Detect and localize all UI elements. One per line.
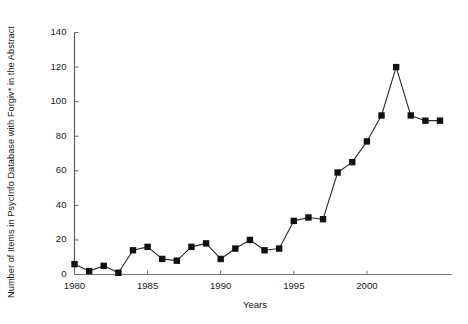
data-point-marker [364, 138, 370, 144]
data-point-marker [71, 261, 77, 267]
data-point-marker [101, 263, 107, 269]
data-point-marker [408, 112, 414, 118]
data-point-marker [349, 159, 355, 165]
data-point-marker [86, 268, 92, 274]
data-point-marker [393, 64, 399, 70]
data-point-marker [159, 256, 165, 262]
data-point-marker [276, 245, 282, 251]
data-point-marker [115, 270, 121, 276]
data-point-marker [334, 169, 340, 175]
data-point-marker [378, 112, 384, 118]
data-point-marker [320, 216, 326, 222]
plot-area [0, 0, 468, 324]
data-point-marker [247, 237, 253, 243]
data-point-marker [422, 117, 428, 123]
data-series [71, 64, 443, 276]
data-point-marker [218, 256, 224, 262]
data-point-marker [305, 214, 311, 220]
data-point-marker [130, 247, 136, 253]
data-point-marker [291, 218, 297, 224]
data-point-marker [261, 247, 267, 253]
data-point-marker [437, 117, 443, 123]
data-point-marker [232, 245, 238, 251]
data-line [75, 67, 441, 273]
data-point-marker [174, 257, 180, 263]
data-point-marker [188, 244, 194, 250]
data-point-marker [144, 244, 150, 250]
data-point-marker [203, 240, 209, 246]
chart-figure: Number of Items in PsycInfo Database wit… [0, 0, 468, 324]
